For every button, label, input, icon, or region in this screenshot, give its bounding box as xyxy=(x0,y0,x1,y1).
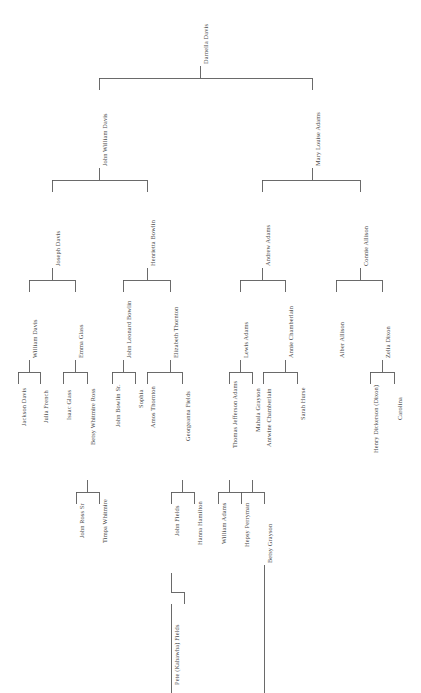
node-jackson-davis[interactable]: Jackson Davis xyxy=(21,388,27,426)
node-lewis-adams[interactable]: Lewis Adams xyxy=(243,322,249,358)
node-emma-glass[interactable]: Emma Glass xyxy=(78,324,84,358)
node-antwine-chamberlain[interactable]: Antwine Chamberlain xyxy=(266,388,272,447)
node-isaac-glass[interactable]: Isaac Glass xyxy=(66,390,72,420)
node-john-leonard-bowlin[interactable]: John Leonard Bowlin xyxy=(126,301,132,358)
node-henrietta-bowlin[interactable]: Henrietta Bowlin xyxy=(150,220,156,266)
node-elizabeth-thornton[interactable]: Elizabeth Thornton xyxy=(173,307,179,358)
node-connie-allison[interactable]: Connie Allison xyxy=(363,226,369,266)
node-henry-dickerson[interactable]: Henry Dickerson (Dixon) xyxy=(373,385,379,453)
node-thomas-jefferson-adams[interactable]: Thomas Jefferson Adams xyxy=(232,381,238,448)
node-sarah-hurse[interactable]: Sarah Hurse xyxy=(300,387,306,420)
node-john-ross-sr[interactable]: John Ross Sr xyxy=(79,503,85,538)
node-john-william-davis[interactable]: John William Davis xyxy=(102,113,108,166)
node-sophia[interactable]: Sophia xyxy=(138,390,144,408)
node-betsy-grayson[interactable]: Betsy Grayson xyxy=(267,524,273,563)
node-william-davis[interactable]: William Davis xyxy=(32,319,38,358)
node-william-adams[interactable]: William Adams xyxy=(221,503,227,544)
node-carolina[interactable]: Carolina xyxy=(397,397,403,420)
node-john-fields[interactable]: John Fields xyxy=(174,505,180,536)
node-joseph-davis[interactable]: Joseph Davis xyxy=(55,231,61,266)
node-mary-louise-adams[interactable]: Mary Louise Adams xyxy=(315,112,321,166)
node-john-bowlin-sr[interactable]: John Bowlin Sr. xyxy=(115,384,121,427)
node-hanna-hamilton[interactable]: Hanna Hamilton xyxy=(197,501,203,545)
node-georgeanna-fields[interactable]: Georgeanna Fields xyxy=(185,391,191,441)
node-mahala-grayson[interactable]: Mahala Grayson xyxy=(255,388,261,432)
node-hepsy-perryman[interactable]: Hepsy Perryman xyxy=(244,503,250,547)
node-timpa-whitmire[interactable]: Timpa Whitmire xyxy=(102,499,108,543)
node-zelia-dixon[interactable]: Zelia Dixon xyxy=(385,326,391,358)
family-tree-chart: Darnella Davis John William Davis Mary L… xyxy=(0,0,421,693)
node-pete-kahawha-fields[interactable]: Pete (Kahawha) Fields xyxy=(174,624,180,685)
node-julia-french[interactable]: Julia French xyxy=(43,390,49,423)
node-label-layer: Darnella Davis John William Davis Mary L… xyxy=(0,0,421,693)
node-annie-chamberlain[interactable]: Annie Chamberlain xyxy=(288,306,294,358)
node-amos-thornton[interactable]: Amos Thornton xyxy=(150,386,156,428)
node-betsy-whitmire-ross[interactable]: Betsy Whitmire Ross xyxy=(90,388,96,445)
node-darnella-davis[interactable]: Darnella Davis xyxy=(203,24,209,64)
node-andrew-adams[interactable]: Andrew Adams xyxy=(265,225,271,266)
node-alber-allison[interactable]: Alber Allison xyxy=(339,322,345,358)
